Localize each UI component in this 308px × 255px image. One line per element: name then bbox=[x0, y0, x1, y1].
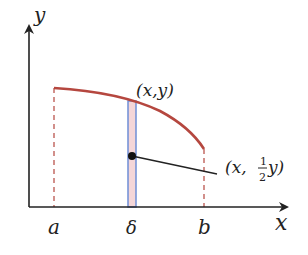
y-axis-label: y bbox=[33, 3, 46, 27]
point-label-mid-suffix: y) bbox=[267, 157, 284, 177]
frac-denominator: 2 bbox=[259, 171, 266, 184]
tick-label-a: a bbox=[48, 215, 60, 239]
point-label-mid-prefix: (x, bbox=[225, 157, 247, 177]
centroid-diagram: y x a δ b (x,y) (x, 1 2 y) bbox=[0, 0, 308, 255]
tick-label-b: b bbox=[198, 215, 211, 239]
x-axis-label: x bbox=[275, 210, 288, 235]
point-label-top: (x,y) bbox=[136, 80, 174, 100]
tick-label-delta: δ bbox=[126, 217, 137, 238]
centroid-dot bbox=[128, 152, 136, 160]
frac-numerator: 1 bbox=[260, 155, 267, 168]
